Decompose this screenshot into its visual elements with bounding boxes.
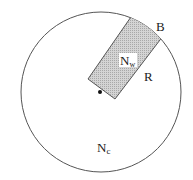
label-b: B: [156, 19, 165, 34]
diagram-canvas: Nw B R Nc: [0, 0, 193, 180]
center-dot: [98, 90, 102, 94]
label-r: R: [144, 69, 153, 84]
